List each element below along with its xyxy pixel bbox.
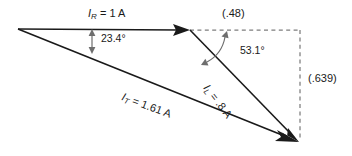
label-angle-inductive: 53.1° [240, 45, 265, 56]
angle-inductive-arc-head-top [222, 31, 229, 38]
phasor-diagram: IR = 1 A 23.4° (.48) 53.1° (.639) IL = .… [0, 0, 352, 156]
label-resistive-subscript: R [91, 12, 97, 21]
phasor-diagram-canvas [0, 0, 352, 156]
label-total-subscript: T [123, 96, 131, 106]
total-vector-arrowhead [275, 130, 299, 142]
angle-inductive-measure-arc [201, 31, 229, 65]
angle-total-measure-arrow [89, 29, 96, 54]
angle-total-arrow-head-down [89, 47, 96, 54]
label-resistive-current: IR = 1 A [88, 8, 125, 21]
label-resistive-value: = 1 A [100, 7, 125, 19]
resistive-vector-shaft [18, 29, 179, 30]
label-vertical-component: (.639) [308, 73, 337, 84]
label-angle-total: 23.4° [101, 33, 126, 44]
label-horizontal-component: (.48) [222, 8, 245, 19]
